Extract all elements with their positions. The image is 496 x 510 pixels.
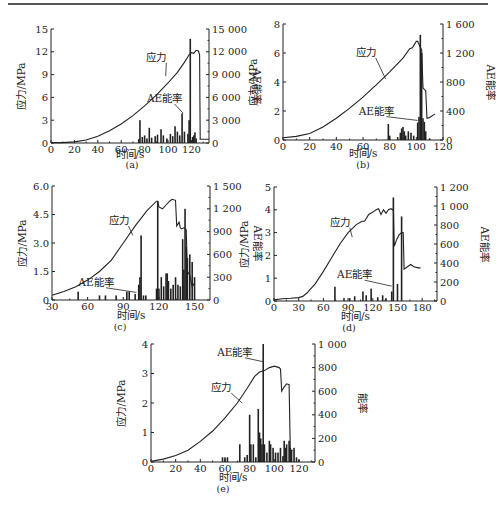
y-left-tick-label: 1 (265, 273, 271, 284)
y-right-tick-label: 1 000 (318, 339, 347, 350)
annotation-label: AE能率 (146, 92, 182, 104)
figure-grid: 0204060801001200369121503 0006 0009 0001… (0, 0, 496, 510)
x-tick-label: 100 (158, 144, 177, 155)
y-left-tick-label: 0 (43, 295, 49, 306)
annotation-label: 应力 (356, 46, 376, 58)
panel-caption: (d) (342, 322, 356, 333)
y-left-tick-label: 2 (265, 250, 271, 261)
y-right-tick-label: 6 000 (212, 92, 241, 103)
y-left-tick-label: 3 (265, 227, 271, 238)
chart-panel-e: 0204060801001200123402004006008001 000时间… (115, 339, 369, 495)
annotation-label: 应力 (330, 216, 350, 228)
annotation-label: AE能率 (77, 276, 113, 288)
chart-panel-c: 30609012015001.53.04.56.003006009001 200… (16, 181, 264, 333)
y-left-tick-label: 15 (35, 24, 48, 35)
x-tick-label: 30 (292, 302, 305, 313)
x-tick-label: 60 (81, 301, 94, 312)
x-tick-label: 180 (413, 302, 432, 313)
x-tick-label: 150 (185, 301, 204, 312)
y-right-tick-label: 400 (318, 409, 337, 420)
y-left-axis-label: 应力/MPa (15, 62, 27, 109)
y-left-tick-label: 2 (142, 398, 148, 409)
x-tick-label: 100 (407, 141, 426, 152)
y-left-tick-label: 1 (142, 427, 148, 438)
y-left-axis-label: 应力/MPa (247, 58, 259, 105)
y-right-tick-label: 0 (440, 296, 446, 307)
x-axis-label: 时间/s (219, 471, 248, 483)
ae-bars (222, 344, 300, 462)
annotation-label: AE能率 (358, 105, 394, 117)
annotation-label: 应力 (211, 381, 231, 393)
y-left-tick-label: 6.0 (33, 181, 49, 192)
panel-caption: (e) (216, 483, 229, 494)
y-right-tick-label: 400 (446, 106, 465, 117)
y-right-tick-label: 800 (318, 362, 337, 373)
annotation-leader (386, 117, 417, 121)
y-right-tick-label: 9 000 (212, 69, 241, 80)
x-tick-label: 100 (265, 463, 284, 474)
chart-panel-d: 030609012015018001234502004006008001 000… (238, 182, 491, 334)
annotation-label: AE能率 (336, 268, 372, 280)
x-axis-label: 时间/s (117, 309, 146, 321)
y-left-tick-label: 0 (265, 296, 271, 307)
y-right-tick-label: 600 (213, 249, 232, 260)
stress-line (51, 50, 209, 142)
y-left-tick-label: 3.0 (33, 238, 49, 249)
y-right-tick-label: 300 (213, 272, 232, 283)
y-right-tick-label: 15 000 (212, 24, 247, 35)
y-left-tick-label: 6 (274, 48, 280, 59)
y-left-tick-label: 3 (142, 368, 148, 379)
y-right-axis-label: AE能率 (479, 225, 491, 261)
x-tick-label: 20 (303, 141, 316, 152)
x-tick-label: 60 (317, 302, 330, 313)
y-right-axis-label: AE能率 (485, 63, 496, 99)
x-tick-label: 40 (330, 141, 343, 152)
y-left-tick-label: 0 (142, 457, 148, 468)
annotation-label: 应力 (109, 214, 129, 226)
y-right-tick-label: 600 (318, 386, 337, 397)
y-right-tick-label: 1 200 (446, 48, 475, 59)
y-left-tick-label: 6 (42, 92, 48, 103)
x-tick-label: 40 (91, 144, 104, 155)
ae-bars (388, 35, 431, 140)
panel-caption: (c) (114, 321, 127, 332)
y-right-axis-label: AE能率 (252, 224, 264, 260)
y-right-axis-label: 能率 (357, 393, 369, 413)
y-left-tick-label: 2 (274, 106, 280, 117)
annotation-label: AE能率 (216, 346, 252, 358)
annotation-leader (166, 63, 167, 76)
y-left-tick-label: 9 (42, 69, 48, 80)
y-right-tick-label: 1 500 (213, 181, 242, 192)
y-left-tick-label: 8 (274, 19, 280, 30)
y-left-axis-label: 应力/MPa (115, 379, 127, 426)
annotation-leader (175, 104, 184, 113)
y-left-tick-label: 0 (274, 135, 280, 146)
panel-caption: (a) (125, 159, 138, 170)
annotation-leader (365, 280, 392, 286)
chart-panel-a: 0204060801001200369121503 0006 0009 0001… (15, 24, 263, 171)
annotation-leader (106, 288, 136, 293)
y-left-axis-label: 应力/MPa (16, 219, 28, 266)
x-tick-label: 120 (289, 463, 308, 474)
x-axis-label: 时间/s (349, 147, 378, 159)
y-right-tick-label: 1 600 (446, 19, 475, 30)
y-left-tick-label: 0 (42, 138, 48, 149)
y-right-tick-label: 200 (440, 277, 459, 288)
y-left-tick-label: 4 (274, 77, 280, 88)
axes (51, 29, 209, 143)
x-tick-label: 0 (148, 463, 154, 474)
x-axis-label: 时间/s (341, 310, 370, 322)
ae-bars (334, 197, 402, 301)
y-right-tick-label: 800 (446, 77, 465, 88)
y-right-tick-label: 1 000 (440, 201, 469, 212)
y-left-axis-label: 应力/MPa (238, 220, 250, 267)
x-tick-label: 80 (383, 141, 396, 152)
y-right-tick-label: 900 (213, 226, 232, 237)
panel-caption: (b) (356, 159, 370, 170)
y-right-tick-label: 0 (212, 138, 218, 149)
y-left-tick-label: 3 (42, 115, 48, 126)
y-left-tick-label: 12 (35, 46, 48, 57)
x-tick-label: 120 (149, 301, 168, 312)
y-left-tick-label: 4 (265, 204, 271, 215)
y-right-tick-label: 0 (446, 135, 452, 146)
